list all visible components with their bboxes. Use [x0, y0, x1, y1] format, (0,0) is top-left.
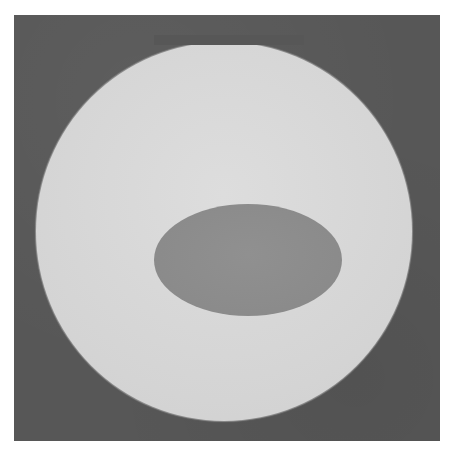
- dark-background-frame: [14, 15, 440, 441]
- disk-top-clip: [154, 35, 304, 45]
- bright-disk: [36, 42, 412, 421]
- dark-ellipse: [154, 204, 342, 316]
